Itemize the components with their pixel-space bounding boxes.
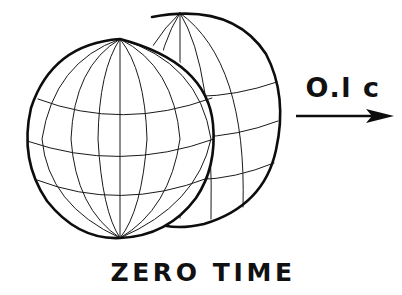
figure-caption: ZERO TIME xyxy=(110,258,295,287)
figure-root: O.l c ZERO TIME xyxy=(0,0,402,295)
velocity-arrow xyxy=(296,109,394,123)
front-wireframe-sphere xyxy=(27,39,214,239)
figure-canvas: O.l c ZERO TIME xyxy=(0,0,402,295)
velocity-label: O.l c xyxy=(306,72,381,103)
